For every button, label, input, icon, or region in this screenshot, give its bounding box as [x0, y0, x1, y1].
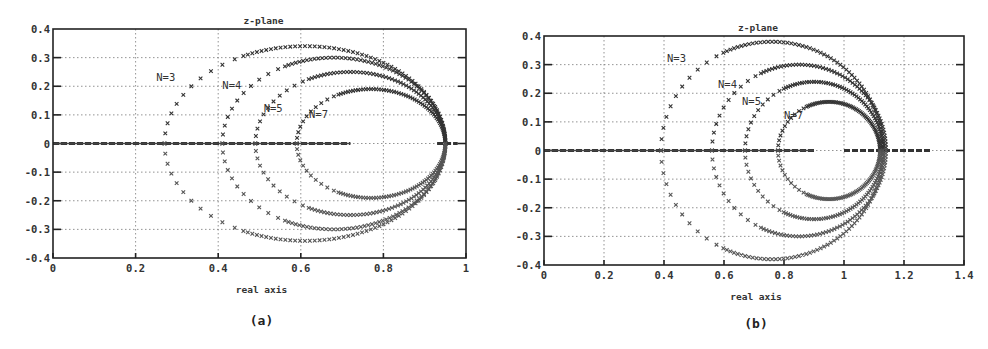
y-tick-label: 0.3	[31, 52, 50, 64]
x-tick-label: 0.8	[374, 262, 393, 274]
y-tick-label: -0.3	[516, 230, 541, 242]
x-tick-label: 0	[541, 269, 547, 281]
y-tick-label: 0.1	[31, 109, 50, 121]
series-annotation: N=5	[742, 95, 761, 107]
y-tick-label: -0.2	[516, 202, 541, 214]
y-tick-label: -0.2	[25, 195, 50, 207]
y-tick-label: 0.2	[31, 80, 50, 92]
x-tick-label: 1.2	[895, 269, 914, 281]
y-tick-label: 0	[535, 145, 541, 157]
figure: 00.20.40.60.810.40.30.20.10-0.1-0.2-0.3-…	[0, 0, 988, 349]
y-tick-label: 0.3	[522, 59, 541, 71]
x-tick-label: 1	[841, 269, 847, 281]
series-annotation: N=3	[156, 71, 175, 83]
x-tick-label: 0.6	[715, 269, 734, 281]
series-annotation: N=4	[718, 78, 737, 90]
series-annotation: N=7	[309, 108, 328, 120]
x-tick-label: 0.6	[291, 262, 310, 274]
x-tick-label: 0.4	[655, 269, 674, 281]
series-annotation: N=5	[264, 102, 283, 114]
x-tick-label: 1	[463, 262, 469, 274]
x-tick-label: 0	[50, 262, 56, 274]
y-tick-label: 0.4	[522, 30, 541, 42]
y-tick-label: 0.4	[31, 23, 50, 35]
y-tick-label: 0	[44, 138, 50, 150]
plot-b: 00.20.40.60.811.21.40.40.30.20.10-0.1-0.…	[516, 22, 974, 331]
y-tick-label: -0.3	[25, 223, 50, 235]
x-tick-label: 0.2	[126, 262, 145, 274]
subfigure-caption: (b)	[744, 316, 767, 331]
series-annotation: N=3	[667, 52, 686, 64]
plot-a: 00.20.40.60.810.40.30.20.10-0.1-0.2-0.3-…	[25, 15, 469, 328]
x-axis-label: real axis	[730, 291, 781, 302]
series-annotation: N=7	[784, 109, 803, 121]
series-annotation: N=4	[222, 79, 241, 91]
y-tick-label: -0.1	[25, 166, 50, 178]
x-tick-label: 0.2	[595, 269, 614, 281]
y-tick-label: 0.2	[522, 87, 541, 99]
y-tick-label: -0.1	[516, 173, 541, 185]
y-tick-label: -0.4	[25, 252, 50, 264]
x-tick-label: 0.4	[209, 262, 228, 274]
chart-title: z-plane	[738, 22, 778, 33]
x-axis-label: real axis	[236, 284, 287, 295]
x-tick-label: 1.4	[955, 269, 974, 281]
x-tick-label: 0.8	[775, 269, 794, 281]
chart-title: z-plane	[243, 15, 283, 26]
y-tick-label: -0.4	[516, 259, 541, 271]
y-tick-label: 0.1	[522, 116, 541, 128]
subfigure-caption: (a)	[250, 313, 273, 328]
